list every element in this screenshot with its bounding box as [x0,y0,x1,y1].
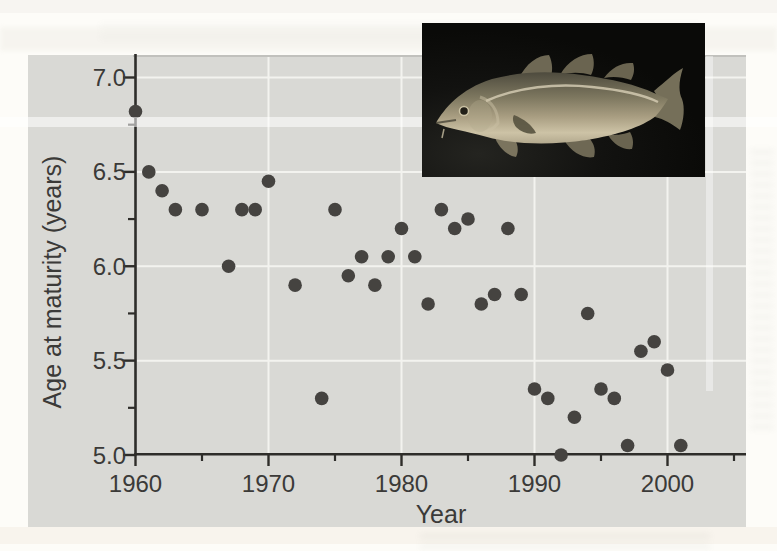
data-point [501,222,515,236]
data-point [355,250,369,264]
x-tick-label: 1970 [242,470,295,497]
y-tick-label: 7.0 [93,64,126,91]
data-point [222,259,236,273]
data-point [568,410,582,424]
data-point [435,203,449,217]
cheek-highlight [468,100,492,132]
x-axis-title: Year [416,500,467,529]
data-point [381,250,395,264]
data-point [475,297,489,311]
data-point [408,250,422,264]
data-point [288,278,302,292]
data-point [368,278,382,292]
data-point [661,363,675,377]
data-point [155,184,169,198]
data-point [461,212,475,226]
data-point [262,175,276,189]
data-point [528,382,542,396]
data-point [421,297,435,311]
x-tick-label: 2000 [641,470,694,497]
x-tick-label: 1980 [375,470,428,497]
data-point [235,203,249,217]
y-tick-label: 5.0 [93,442,126,469]
y-tick-label: 5.5 [93,347,126,374]
data-point [621,439,635,453]
data-point [488,288,502,302]
data-point [395,222,409,236]
y-tick-label: 6.5 [93,158,126,185]
figure-page: 5.05.56.06.57.019601970198019902000 Age … [0,0,777,551]
page-bleed-artifact [750,150,774,430]
scan-artifact-vert-band [706,56,713,391]
x-tick-label: 1990 [508,470,561,497]
data-point [448,222,462,236]
data-point [634,344,648,358]
data-point [541,392,555,406]
data-point [674,439,688,453]
data-point [608,392,622,406]
data-point [514,288,528,302]
page-bleed-artifact [420,534,710,548]
cod-photo [422,23,705,177]
data-point [169,203,183,217]
data-point [554,448,568,462]
data-point [647,335,661,349]
data-point [594,382,608,396]
x-tick-label: 1960 [109,470,162,497]
data-point [342,269,356,283]
eye [460,107,469,116]
y-tick-label: 6.0 [93,253,126,280]
y-axis-title: Age at maturity (years) [38,156,67,409]
data-point [315,392,329,406]
data-point [248,203,262,217]
data-point [195,203,209,217]
data-point [328,203,342,217]
data-point [142,165,156,179]
data-point [581,307,595,321]
